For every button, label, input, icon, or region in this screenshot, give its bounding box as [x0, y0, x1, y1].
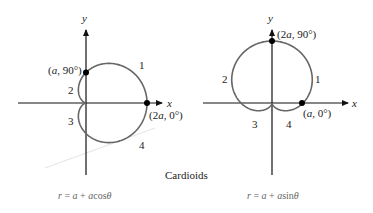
left-x-axis-label: x — [167, 97, 172, 109]
left-point-label-a-90: (a, 90°) — [48, 64, 82, 76]
left-region-4: 4 — [139, 139, 145, 151]
right-point-2a-90 — [269, 38, 275, 44]
right-region-4: 4 — [286, 118, 292, 130]
right-point-label-a-0: (a, 0°) — [303, 107, 331, 119]
left-point-label-2a-0: (2a, 0°) — [149, 109, 183, 121]
right-point-label-2a-90: (2a, 90°) — [277, 28, 316, 40]
left-point-a-90 — [83, 70, 89, 76]
right-region-1: 1 — [315, 73, 321, 85]
left-region-2: 2 — [68, 84, 74, 96]
left-region-3: 3 — [68, 115, 74, 127]
right-region-3: 3 — [252, 118, 258, 130]
right-point-a-0 — [299, 100, 305, 106]
right-y-axis-label: y — [268, 12, 273, 24]
left-region-1: 1 — [139, 59, 145, 71]
right-equation: r = a + asinθ — [247, 190, 299, 201]
figure-title: Cardioids — [165, 169, 208, 181]
left-equation: r = a + acosθ — [58, 190, 111, 201]
left-point-2a-0 — [144, 100, 150, 106]
left-y-axis-label: y — [82, 12, 87, 24]
right-x-axis-label: x — [352, 97, 357, 109]
left-diagram — [18, 30, 162, 175]
right-diagram — [203, 30, 348, 175]
right-region-2: 2 — [222, 73, 228, 85]
